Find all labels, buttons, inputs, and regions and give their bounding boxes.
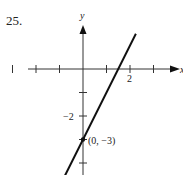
y-tick-labels: −2 xyxy=(63,111,74,122)
y-axis-arrow-icon xyxy=(80,25,87,34)
plot-line xyxy=(48,34,136,175)
x-axis-arrow-icon xyxy=(170,66,180,73)
labeled-points: (0, −3) xyxy=(81,135,116,147)
point-marker xyxy=(81,137,85,141)
x-tick-labels: 2 xyxy=(127,73,132,84)
x-axis: x xyxy=(28,64,183,75)
x-axis-label: x xyxy=(179,64,183,75)
y-axis-label: y xyxy=(79,10,85,21)
line-series xyxy=(48,34,136,175)
graph: x 2 y −2 (0, −3) xyxy=(0,0,183,175)
x-tick-label: 2 xyxy=(127,73,132,84)
y-tick-label: −2 xyxy=(63,111,74,122)
point-label: (0, −3) xyxy=(88,135,115,147)
